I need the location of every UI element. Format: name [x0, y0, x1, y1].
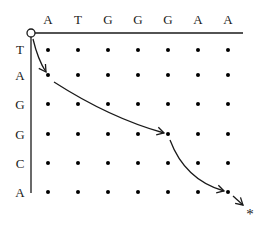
top-label: A	[193, 12, 203, 27]
grid-dot	[166, 73, 170, 77]
alignment-diagram: A T G G G A A T A G G C A *	[0, 0, 267, 226]
left-label: A	[15, 185, 25, 200]
grid-dot	[196, 132, 200, 136]
top-sequence-labels: A T G G G A A	[43, 12, 233, 27]
left-label: G	[15, 97, 24, 112]
grid-dot	[226, 102, 230, 106]
grid-dot	[76, 161, 80, 165]
top-label: G	[163, 12, 172, 27]
grid-dot	[76, 190, 80, 194]
grid-dot	[166, 132, 170, 136]
end-marker: *	[246, 206, 254, 222]
grid-dot	[136, 48, 140, 52]
grid-dot	[226, 132, 230, 136]
start-circle-icon	[27, 29, 35, 37]
grid-dot	[106, 161, 110, 165]
grid-dot	[106, 102, 110, 106]
grid-dot	[136, 161, 140, 165]
grid-dot	[106, 73, 110, 77]
grid-dot	[106, 132, 110, 136]
grid-dot	[166, 48, 170, 52]
grid-dot	[136, 102, 140, 106]
grid-dot	[226, 190, 230, 194]
grid-dot	[166, 190, 170, 194]
grid-dot	[46, 132, 50, 136]
grid-dot	[46, 48, 50, 52]
grid-dot	[196, 73, 200, 77]
grid-dot	[166, 102, 170, 106]
grid-dot	[106, 190, 110, 194]
grid-dot	[226, 161, 230, 165]
grid-dot	[196, 102, 200, 106]
left-label: G	[15, 127, 24, 142]
alignment-path	[33, 39, 243, 205]
top-label: A	[43, 12, 53, 27]
dot-grid	[46, 48, 230, 194]
left-label: T	[16, 42, 24, 57]
grid-dot	[196, 161, 200, 165]
grid-dot	[76, 73, 80, 77]
grid-dot	[136, 73, 140, 77]
grid-dot	[226, 48, 230, 52]
grid-dot	[136, 190, 140, 194]
grid-dot	[46, 102, 50, 106]
grid-dot	[106, 48, 110, 52]
grid-dot	[46, 161, 50, 165]
top-label: T	[74, 12, 82, 27]
grid-dot	[76, 132, 80, 136]
grid-dot	[76, 102, 80, 106]
path-arrow-2	[54, 82, 164, 133]
grid-dot	[226, 73, 230, 77]
left-sequence-labels: T A G G C A	[15, 42, 25, 200]
left-label: A	[15, 68, 25, 83]
grid-dot	[166, 161, 170, 165]
path-arrow-4	[233, 196, 243, 205]
path-arrow-1	[33, 39, 46, 72]
left-label: C	[16, 156, 25, 171]
grid-dot	[46, 73, 50, 77]
grid-dot	[76, 48, 80, 52]
top-label: A	[223, 12, 233, 27]
top-label: G	[133, 12, 142, 27]
path-arrow-3	[170, 140, 224, 191]
top-label: G	[103, 12, 112, 27]
grid-dot	[46, 190, 50, 194]
grid-dot	[136, 132, 140, 136]
grid-dot	[196, 48, 200, 52]
grid-dot	[196, 190, 200, 194]
